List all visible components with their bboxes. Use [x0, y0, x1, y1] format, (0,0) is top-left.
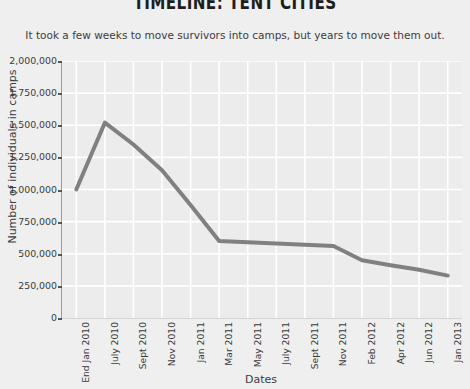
- y-axis-tick-label: 250,000: [1, 280, 57, 291]
- y-axis-tick-mark: [58, 286, 62, 288]
- y-axis-tick-label: 2,000,000: [1, 55, 57, 66]
- data-line-series: [62, 61, 462, 318]
- x-axis-tick-label: Sept 2011: [309, 322, 320, 369]
- x-axis-tick-label: Apr 2012: [395, 322, 406, 364]
- x-axis-tick-label: Jan 2011: [195, 322, 206, 362]
- data-line: [76, 123, 447, 276]
- x-axis-tick-label: Nov 2010: [166, 322, 177, 366]
- y-axis-tick-mark: [58, 222, 62, 224]
- x-axis-title: Dates: [0, 373, 470, 386]
- x-axis-tick-label: Mar 2011: [223, 322, 234, 366]
- x-axis-tick-label: Jan 2013: [452, 322, 463, 362]
- x-axis-tick-label: May 2011: [252, 322, 263, 367]
- x-axis-tick-label: July 2011: [280, 322, 291, 365]
- y-axis-tick-label: 1,250,000: [1, 151, 57, 162]
- x-axis-tick-labels: End Jan 2010July 2010Sept 2010Nov 2010Ja…: [62, 318, 462, 374]
- y-axis-tick-mark: [58, 318, 62, 320]
- y-axis-tick-mark: [58, 254, 62, 256]
- x-axis-tick-label: Feb 2012: [366, 322, 377, 365]
- y-axis-tick-labels: 0250,000500,000750,0001,000,0001,250,000…: [0, 61, 57, 318]
- y-axis-tick-mark: [58, 125, 62, 127]
- y-axis-tick-label: 1,750,000: [1, 87, 57, 98]
- chart-title: TIMELINE: TENT CITIES: [47, 0, 423, 12]
- y-axis-tick-label: 750,000: [1, 216, 57, 227]
- y-axis-tick-label: 0: [1, 312, 57, 323]
- y-axis-tick-label: 1,500,000: [1, 119, 57, 130]
- x-axis-tick-label: Sept 2010: [137, 322, 148, 369]
- y-axis-tick-label: 1,000,000: [1, 184, 57, 195]
- y-axis-tick-mark: [58, 61, 62, 63]
- chart-page: TIMELINE: TENT CITIES It took a few week…: [0, 0, 470, 389]
- x-axis-tick-label: Jun 2012: [423, 322, 434, 363]
- y-axis-tick-mark: [58, 157, 62, 159]
- y-axis-tick-mark: [58, 190, 62, 192]
- chart-subtitle: It took a few weeks to move survivors in…: [14, 29, 456, 42]
- x-axis-tick-label: Nov 2011: [337, 322, 348, 366]
- plot-area: [62, 61, 462, 318]
- y-axis-tick-label: 500,000: [1, 248, 57, 259]
- x-axis-tick-label: July 2010: [109, 322, 120, 365]
- y-axis-tick-mark: [58, 93, 62, 95]
